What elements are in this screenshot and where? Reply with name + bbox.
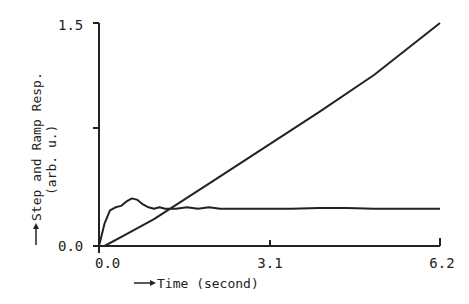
x-axis-label: Time (second) xyxy=(157,276,259,291)
x-tick-label-2: 6.2 xyxy=(429,255,454,271)
y-tick-label-zero: 0.0 xyxy=(58,238,83,254)
ramp-response-line xyxy=(105,23,441,246)
x-tick-label-0: 0.0 xyxy=(95,255,120,271)
y-axis-label: Step and Ramp Resp. xyxy=(29,72,44,221)
chart: 1.5 0.0 0.0 3.1 6.2 Time (second) Step a… xyxy=(0,0,469,304)
y-label-arrowhead-icon xyxy=(33,223,39,229)
y-axis-sublabel: (arb. u.) xyxy=(44,125,59,195)
x-label-arrowhead-icon xyxy=(150,280,156,286)
x-tick-label-1: 3.1 xyxy=(257,255,282,271)
y-tick-label-top: 1.5 xyxy=(58,17,83,33)
